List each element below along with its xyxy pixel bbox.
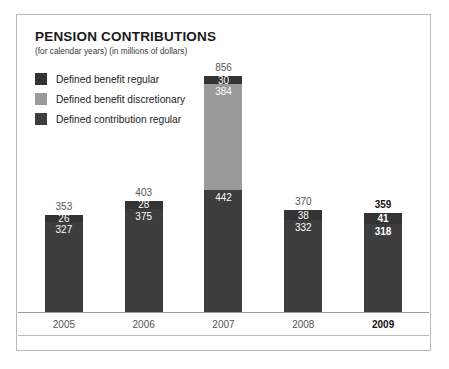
bar-total-label: 403 <box>135 187 152 198</box>
x-axis-label: 2007 <box>184 314 264 335</box>
x-axis-label: 2009 <box>343 314 423 335</box>
bar-segment-value: 318 <box>375 226 392 237</box>
bar-column[interactable]: 40328375 <box>104 55 184 312</box>
bar-segment-defined-contribution-regular[interactable]: 375 <box>125 209 163 312</box>
bar-segment-value: 332 <box>295 222 312 233</box>
bar-column[interactable]: 35326327 <box>24 55 104 312</box>
bar-stack: 38332 <box>284 210 322 312</box>
bar-segment-defined-benefit-discretionary[interactable]: 384 <box>204 84 242 190</box>
bar-segment-defined-contribution-regular[interactable]: 327 <box>45 222 83 312</box>
bar-segment-defined-benefit-regular[interactable]: 30 <box>204 76 242 84</box>
bar-total-label: 353 <box>56 201 73 212</box>
x-axis-line <box>18 312 429 313</box>
bar-segment-defined-benefit-regular[interactable]: 28 <box>125 201 163 209</box>
bar-segment-value: 384 <box>215 86 232 97</box>
bar-stack: 30384442 <box>204 76 242 312</box>
bar-segment-defined-contribution-regular[interactable]: 442 <box>204 190 242 312</box>
bar-column[interactable]: 35941318 <box>343 55 423 312</box>
chart-title: PENSION CONTRIBUTIONS <box>35 29 216 44</box>
bar-segment-value: 327 <box>56 224 73 235</box>
bar-stack: 26327 <box>45 215 83 312</box>
bar-total-label: 856 <box>215 62 232 73</box>
bar-segment-defined-benefit-regular[interactable]: 38 <box>284 210 322 220</box>
bar-segment-defined-contribution-regular[interactable]: 332 <box>284 220 322 312</box>
bar-segment-value: 26 <box>58 215 69 222</box>
bar-segment-defined-contribution-regular[interactable]: 318 <box>364 224 402 312</box>
bar-column[interactable]: 85630384442 <box>184 55 264 312</box>
bar-segment-value: 38 <box>298 210 309 220</box>
bar-total-label: 359 <box>375 199 392 210</box>
bar-group: 3532632740328375856303844423703833235941… <box>18 55 429 312</box>
chart-frame: PENSION CONTRIBUTIONS (for calendar year… <box>16 14 431 351</box>
bar-segment-defined-benefit-regular[interactable]: 26 <box>45 215 83 222</box>
bar-segment-value: 375 <box>135 211 152 222</box>
x-axis-label: 2008 <box>263 314 343 335</box>
x-axis-label: 2006 <box>104 314 184 335</box>
bar-column[interactable]: 37038332 <box>263 55 343 312</box>
bar-stack: 28375 <box>125 201 163 312</box>
x-axis-label: 2005 <box>24 314 104 335</box>
bar-segment-defined-benefit-regular[interactable]: 41 <box>364 213 402 224</box>
bar-segment-value: 28 <box>138 201 149 209</box>
bar-segment-value: 442 <box>215 192 232 203</box>
x-axis-labels: 20052006200720082009 <box>18 314 429 336</box>
bar-total-label: 370 <box>295 196 312 207</box>
plot-area: 3532632740328375856303844423703833235941… <box>18 55 429 313</box>
bar-segment-value: 41 <box>378 213 389 224</box>
bar-segment-value: 30 <box>218 76 229 84</box>
bar-stack: 41318 <box>364 213 402 312</box>
